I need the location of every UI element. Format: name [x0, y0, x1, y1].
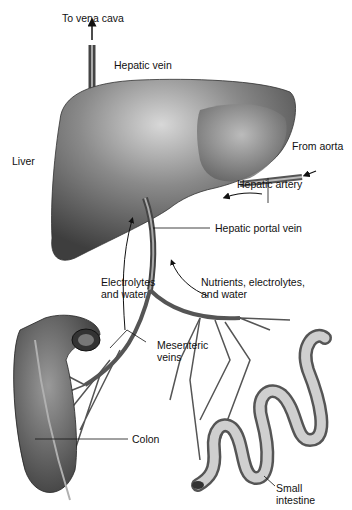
- label-hepatic-vein: Hepatic vein: [114, 59, 172, 71]
- label-mesenteric-line1: Mesenteric: [157, 339, 208, 351]
- hepatic-portal-diagram: To vena cava Hepatic vein Liver From aor…: [0, 0, 352, 510]
- label-small-intestine-line2: intestine: [276, 494, 315, 506]
- colon: [14, 315, 128, 500]
- label-hepatic-artery: Hepatic artery: [237, 178, 302, 190]
- diagram-illustration: [0, 0, 352, 510]
- label-nutrients-line2: and water: [201, 288, 247, 300]
- label-colon: Colon: [132, 433, 159, 445]
- mesenteric-veins: [60, 290, 290, 460]
- label-small-intestine-line1: Small: [276, 482, 302, 494]
- label-liver: Liver: [12, 155, 35, 167]
- label-mesenteric-line2: veins: [157, 351, 182, 363]
- label-to-vena-cava: To vena cava: [62, 12, 124, 24]
- small-intestine: [192, 336, 325, 489]
- label-electrolytes-line1: Electrolytes: [101, 276, 155, 288]
- label-electrolytes-line2: and water: [101, 288, 147, 300]
- label-hepatic-portal-vein: Hepatic portal vein: [215, 222, 302, 234]
- label-from-aorta: From aorta: [292, 140, 343, 152]
- label-nutrients-line1: Nutrients, electrolytes,: [201, 276, 305, 288]
